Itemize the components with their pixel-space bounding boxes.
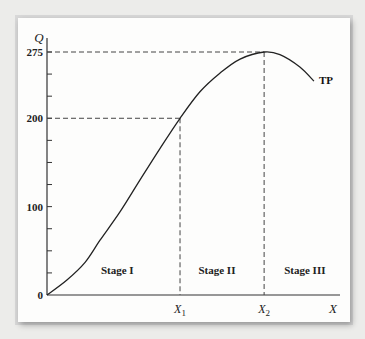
y-tick-label: 100 bbox=[27, 201, 44, 213]
x-marker-label-x1: X1 bbox=[173, 302, 186, 318]
x-axis-title: X bbox=[328, 301, 338, 316]
y-axis-title: Q bbox=[34, 30, 44, 45]
stage-label-2: Stage II bbox=[198, 264, 235, 276]
y-tick-label: 275 bbox=[27, 46, 44, 58]
tp-series-label: TP bbox=[319, 74, 333, 86]
stage-label-1: Stage I bbox=[101, 264, 134, 276]
axes bbox=[47, 38, 340, 295]
y-tick-label: 200 bbox=[27, 112, 44, 124]
guide-lines bbox=[47, 52, 264, 295]
stage-label-3: Stage III bbox=[284, 264, 325, 276]
x-marker-label-x2: X2 bbox=[257, 302, 270, 318]
y-tick-label: 0 bbox=[38, 289, 44, 301]
production-chart: 0100200275QXX1X2Stage IStage IIStage III… bbox=[0, 0, 365, 339]
